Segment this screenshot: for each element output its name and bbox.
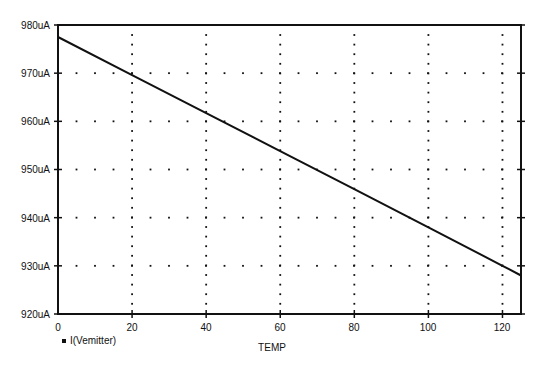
y-tick-label: 940uA [21, 213, 50, 224]
x-tick-label: 100 [420, 322, 437, 333]
x-tick-label: 40 [200, 322, 212, 333]
y-axis-labels: 980uA 970uA 960uA 950uA 940uA 930uA 920u… [21, 20, 50, 320]
series-line-i-vemitter [58, 37, 521, 276]
x-axis-labels: 0 20 40 60 80 100 120 [55, 322, 511, 333]
plot-frame [58, 25, 521, 314]
x-tick-label: 120 [494, 322, 511, 333]
line-chart: 980uA 970uA 960uA 950uA 940uA 930uA 920u… [0, 0, 544, 370]
x-tick-label: 80 [348, 322, 360, 333]
y-tick-label: 980uA [21, 20, 50, 31]
x-tick-label: 0 [55, 322, 61, 333]
y-tick-label: 960uA [21, 116, 50, 127]
grid-dots [76, 34, 504, 305]
y-tick-label: 970uA [21, 68, 50, 79]
x-axis-title: TEMP [258, 342, 286, 353]
y-tick-label: 950uA [21, 164, 50, 175]
y-tick-label: 930uA [21, 261, 50, 272]
legend-square-icon [62, 339, 66, 343]
y-tick-label: 920uA [21, 309, 50, 320]
axis-ticks [54, 25, 525, 318]
x-tick-label: 60 [274, 322, 286, 333]
x-tick-label: 20 [126, 322, 138, 333]
legend-label: I(Vemitter) [70, 335, 116, 346]
